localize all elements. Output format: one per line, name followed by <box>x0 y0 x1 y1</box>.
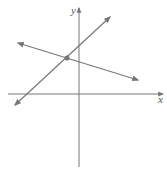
x-axis-label: x <box>157 93 163 105</box>
rising-line <box>15 17 110 105</box>
falling-line <box>18 43 138 80</box>
intersection-point <box>65 56 70 61</box>
y-axis-label: y <box>70 4 76 16</box>
coordinate-diagram: y x <box>0 0 167 175</box>
